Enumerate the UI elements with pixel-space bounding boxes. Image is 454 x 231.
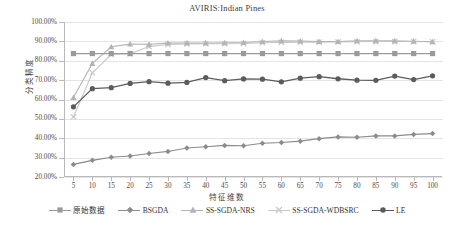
data-point-diamond [126,207,133,214]
legend-item-原始数据[interactable]: 原始数据 [49,206,106,215]
data-point-square [165,51,170,56]
legend-marker-triangle-icon [181,206,203,215]
data-point-circle [392,73,397,78]
y-tick-label: 40.00% [5,135,57,142]
data-point-circle [222,78,227,83]
x-tick-mark [414,177,415,181]
x-tick-mark [206,177,207,181]
data-point-diamond [430,131,436,137]
x-tick-mark [168,177,169,181]
data-point-circle [373,78,378,83]
data-point-circle [411,77,416,82]
data-point-square [279,51,284,56]
series-LE [71,73,435,109]
x-tick-mark [357,177,358,181]
x-tick-mark [130,177,131,181]
legend-label: 原始数据 [73,206,105,215]
data-point-diamond [109,154,115,160]
x-tick-label: 100 [422,182,444,190]
series-原始数据 [71,51,435,56]
data-point-square [298,51,303,56]
data-point-cross [276,207,282,213]
data-point-diamond [90,158,96,164]
data-point-diamond [411,132,417,138]
legend-label: LE [396,206,405,215]
data-point-diamond [146,151,152,157]
chart-series-layer [64,22,442,177]
x-tick-mark [92,177,93,181]
data-point-square [109,51,114,56]
legend-label: SS-SGDA-WDBSRC [292,206,358,215]
data-point-circle [241,76,246,81]
data-point-diamond [335,134,341,140]
data-point-diamond [165,149,171,155]
data-point-circle [279,79,284,84]
data-point-diamond [373,133,379,139]
x-tick-mark [244,177,245,181]
data-point-square [184,51,189,56]
legend-label: BSGDA [143,206,169,215]
data-point-square [317,51,322,56]
data-point-square [241,51,246,56]
y-tick-mark [59,177,64,178]
x-tick-mark [376,177,377,181]
x-tick-mark [395,177,396,181]
data-point-square [430,51,435,56]
y-tick-label: 20.00% [5,174,57,181]
data-point-diamond [316,136,322,142]
data-point-circle [298,76,303,81]
data-point-square [128,51,133,56]
x-tick-mark [187,177,188,181]
data-point-square [203,51,208,56]
y-axis-title: 分类精度 [23,44,34,108]
x-tick-mark [73,177,74,181]
legend-item-LE[interactable]: LE [372,206,406,215]
legend-marker-square-icon [49,206,71,215]
data-point-diamond [241,143,247,149]
data-point-square [373,51,378,56]
data-point-square [222,51,227,56]
series-BSGDA [71,131,436,167]
legend-marker-cross-icon [268,206,290,215]
data-point-square [411,51,416,56]
data-point-square [354,51,359,56]
data-point-diamond [184,145,190,151]
x-tick-mark [149,177,150,181]
data-point-circle [317,74,322,79]
legend-marker-circle-icon [372,206,394,215]
data-point-square [335,51,340,56]
data-point-circle [90,86,95,91]
x-tick-mark [225,177,226,181]
data-point-circle [71,104,76,109]
data-point-circle [184,80,189,85]
data-point-diamond [354,135,360,141]
data-point-circle [380,208,385,213]
data-point-diamond [298,138,304,144]
data-point-circle [165,81,170,86]
data-point-diamond [222,143,228,149]
x-tick-mark [433,177,434,181]
data-point-circle [260,77,265,82]
legend-item-SS-SGDA-WDBSRC[interactable]: SS-SGDA-WDBSRC [268,206,359,215]
chart-container: AVIRIS:Indian Pines 分类精度 100.00%90.00%80… [0,0,454,231]
x-tick-mark [338,177,339,181]
data-point-circle [109,85,114,90]
data-point-diamond [392,133,398,139]
series-SS-SGDA-NRS [70,38,435,100]
y-tick-label: 30.00% [5,154,57,161]
legend-item-SS-SGDA-NRS[interactable]: SS-SGDA-NRS [181,206,254,215]
data-point-cross [90,70,95,75]
data-point-circle [335,76,340,81]
x-tick-mark [281,177,282,181]
data-point-circle [146,79,151,84]
x-tick-mark [111,177,112,181]
data-point-triangle [189,207,196,213]
gridline [65,177,443,178]
y-tick-label: 100.00% [5,19,57,26]
legend-item-BSGDA[interactable]: BSGDA [118,206,168,215]
data-point-square [90,51,95,56]
data-point-circle [128,81,133,86]
data-point-square [392,51,397,56]
data-point-circle [354,78,359,83]
y-tick-label: 50.00% [5,115,57,122]
